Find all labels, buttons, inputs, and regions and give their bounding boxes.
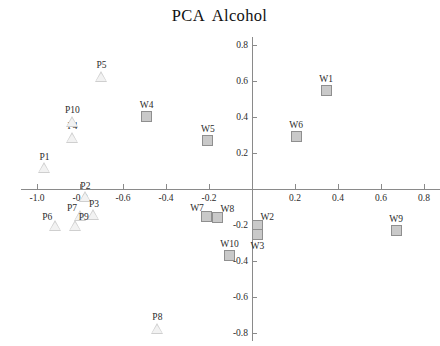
- x-axis-tick-label: -0.2: [201, 193, 216, 203]
- y-axis-tick: [252, 153, 257, 154]
- data-point-label: P9: [79, 213, 89, 223]
- y-axis-tick-label: 0.2: [220, 148, 248, 158]
- x-axis-tick-label: 0.6: [375, 193, 387, 203]
- data-point-label: W10: [220, 240, 238, 250]
- square-marker-icon: [252, 229, 263, 240]
- y-axis-tick-label: 0.6: [220, 76, 248, 86]
- y-axis-tick-label: 0.8: [220, 40, 248, 50]
- data-point-label: P8: [152, 313, 162, 323]
- y-axis-tick: [252, 81, 257, 82]
- y-axis-tick-label: 0.4: [220, 112, 248, 122]
- x-axis-tick-label: 0.8: [418, 193, 430, 203]
- data-point-label: W5: [201, 125, 215, 135]
- data-point-label: P10: [65, 106, 80, 116]
- data-point-label: W1: [319, 75, 333, 85]
- x-axis-tick-label: -1.0: [29, 193, 44, 203]
- x-axis-tick: [37, 184, 38, 189]
- data-point-label: W2: [260, 213, 274, 223]
- y-axis-tick-label: -0.8: [220, 328, 248, 338]
- data-point-label: P3: [89, 200, 99, 210]
- data-point-label: W7: [190, 204, 204, 214]
- y-axis-tick: [252, 297, 257, 298]
- data-point-label: W3: [251, 242, 265, 252]
- x-axis-tick: [424, 184, 425, 189]
- x-axis-tick-label: 0.2: [289, 193, 301, 203]
- triangle-marker-icon: [66, 116, 78, 127]
- x-axis-tick: [209, 184, 210, 189]
- square-marker-icon: [321, 85, 332, 96]
- y-axis-tick: [252, 45, 257, 46]
- x-axis-tick: [381, 184, 382, 189]
- x-axis-tick: [295, 184, 296, 189]
- square-marker-icon: [202, 135, 213, 146]
- y-axis-tick-label: -0.6: [220, 292, 248, 302]
- triangle-marker-icon: [87, 209, 99, 220]
- square-marker-icon: [391, 225, 402, 236]
- y-axis-line: [252, 37, 253, 341]
- data-point-label: W9: [389, 215, 403, 225]
- data-point-label: P2: [80, 182, 90, 192]
- square-marker-icon: [141, 111, 152, 122]
- data-point-label: W4: [140, 101, 154, 111]
- data-point-label: P6: [42, 213, 52, 223]
- x-axis-tick-label: -0.4: [158, 193, 173, 203]
- y-axis-tick: [252, 333, 257, 334]
- y-axis-tick: [252, 117, 257, 118]
- x-axis-tick: [123, 184, 124, 189]
- x-axis-tick-label: -0.6: [115, 193, 130, 203]
- triangle-marker-icon: [66, 132, 78, 143]
- x-axis-tick-label: 0.4: [332, 193, 344, 203]
- y-axis-tick: [252, 261, 257, 262]
- data-point-label: P1: [39, 153, 49, 163]
- y-axis-tick-label: -0.2: [220, 220, 248, 230]
- x-axis-tick: [166, 184, 167, 189]
- triangle-marker-icon: [95, 71, 107, 82]
- triangle-marker-icon: [151, 323, 163, 334]
- triangle-marker-icon: [38, 162, 50, 173]
- data-point-label: W8: [221, 205, 235, 215]
- data-point-label: P5: [96, 61, 106, 71]
- square-marker-icon: [291, 131, 302, 142]
- data-point-label: P7: [67, 204, 77, 214]
- data-point-label: W6: [289, 121, 303, 131]
- x-axis-tick: [338, 184, 339, 189]
- square-marker-icon: [224, 250, 235, 261]
